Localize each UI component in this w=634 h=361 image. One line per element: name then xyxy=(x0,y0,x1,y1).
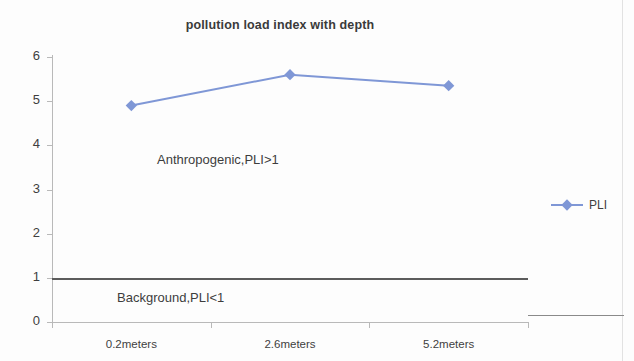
y-axis-tick-label: 6 xyxy=(0,48,40,63)
x-axis-category-label: 2.6meters xyxy=(225,338,355,350)
y-axis-tick-label: 1 xyxy=(0,269,40,284)
legend-label-pli: PLI xyxy=(589,198,607,212)
x-axis-tick xyxy=(528,322,529,328)
x-axis-line xyxy=(52,322,529,323)
x-axis-tick xyxy=(52,322,53,328)
chart-legend: PLI xyxy=(551,198,607,212)
series-plot-pli xyxy=(52,57,528,322)
page-rule-bottom-right xyxy=(528,315,624,316)
chart-container: pollution load index with depth 0123456 … xyxy=(0,0,634,361)
plot-area: Anthropogenic,PLI>1 Background,PLI<1 xyxy=(52,57,528,322)
chart-title: pollution load index with depth xyxy=(0,18,560,32)
data-point-marker xyxy=(284,69,295,80)
y-axis-tick-label: 0 xyxy=(0,313,40,328)
x-axis-category-label: 0.2meters xyxy=(66,338,196,350)
diamond-marker-icon xyxy=(561,199,572,210)
data-point-marker xyxy=(126,100,137,111)
y-axis-tick-label: 3 xyxy=(0,181,40,196)
x-axis-tick xyxy=(211,322,212,328)
y-axis-tick-label: 4 xyxy=(0,136,40,151)
data-point-marker xyxy=(443,80,454,91)
x-axis-tick xyxy=(369,322,370,328)
y-axis-tick-label: 2 xyxy=(0,225,40,240)
legend-swatch-pli xyxy=(551,199,583,211)
x-axis-category-label: 5.2meters xyxy=(384,338,514,350)
page-border-right xyxy=(622,0,623,361)
y-axis-tick-label: 5 xyxy=(0,92,40,107)
